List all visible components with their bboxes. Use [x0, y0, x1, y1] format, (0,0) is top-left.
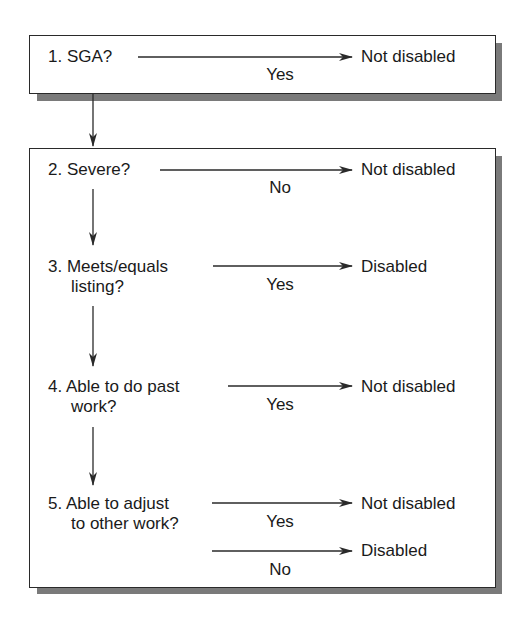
step-4-outcome: Not disabled	[361, 376, 456, 397]
step-2-question: 2. Severe?	[48, 159, 130, 180]
step-4-question: 4. Able to do past	[48, 376, 179, 397]
step-3-question: 3. Meets/equals	[48, 256, 168, 277]
step-5-question-line2: to other work?	[71, 513, 179, 534]
step-5-question: 5. Able to adjust	[48, 493, 169, 514]
step-5-condition-no: No	[250, 559, 310, 580]
step-2-outcome: Not disabled	[361, 159, 456, 180]
step-5-outcome-no: Disabled	[361, 540, 427, 561]
step-3-outcome: Disabled	[361, 256, 427, 277]
step-3-question-line2: listing?	[71, 276, 124, 297]
step-4-condition: Yes	[250, 394, 310, 415]
step-1-outcome: Not disabled	[361, 46, 456, 67]
step-1-condition: Yes	[250, 64, 310, 85]
step-5-condition-yes: Yes	[250, 511, 310, 532]
step-3-condition: Yes	[250, 274, 310, 295]
step-2-condition: No	[250, 177, 310, 198]
step-5-outcome-yes: Not disabled	[361, 493, 456, 514]
step-1-question: 1. SGA?	[48, 46, 112, 67]
step-4-question-line2: work?	[71, 396, 116, 417]
